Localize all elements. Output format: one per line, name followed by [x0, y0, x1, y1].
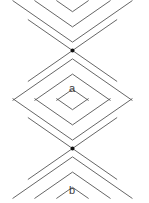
panel-b-label: b: [62, 185, 82, 196]
panel-a-label: a: [62, 83, 82, 94]
panel-b-center-dot: [71, 147, 75, 151]
illusion-figure-panel: a b: [0, 0, 149, 203]
panel-a-center-dot: [71, 49, 75, 53]
illusion-figure-svg: [0, 0, 149, 203]
figure-background: [0, 0, 149, 203]
